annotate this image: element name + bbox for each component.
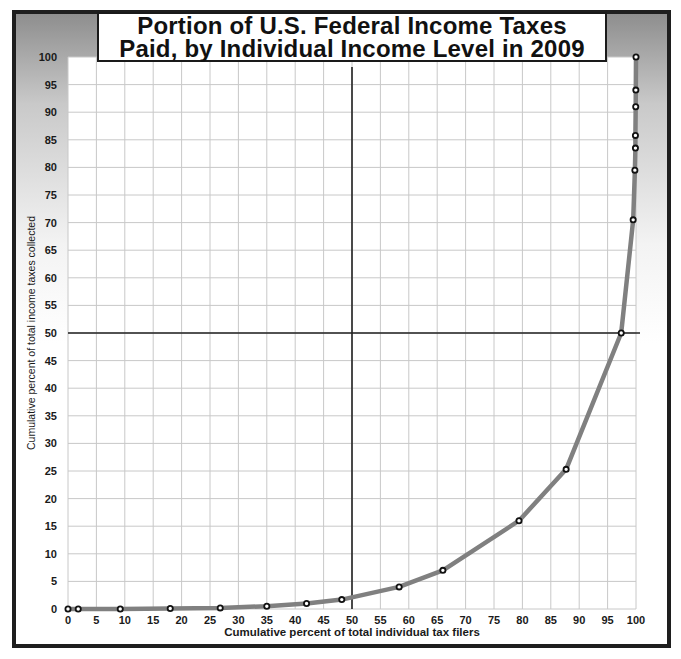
x-tick-label: 35 <box>261 614 273 626</box>
data-point <box>339 597 344 602</box>
data-point <box>264 604 269 609</box>
x-tick-label: 95 <box>601 614 613 626</box>
chart-title: Portion of U.S. Federal Income Taxes Pai… <box>97 12 607 62</box>
y-tick-label: 80 <box>45 161 57 173</box>
y-axis-label: Cumulative percent of total income taxes… <box>25 216 37 450</box>
y-axis-ticks: 0510152025303540455055606570758085909510… <box>39 51 57 615</box>
y-tick-label: 55 <box>45 299 57 311</box>
x-tick-label: 5 <box>93 614 99 626</box>
data-point <box>619 330 624 335</box>
x-tick-label: 25 <box>204 614 216 626</box>
y-tick-label: 20 <box>45 493 57 505</box>
x-tick-label: 50 <box>346 614 358 626</box>
data-point <box>76 606 81 611</box>
data-point <box>218 605 223 610</box>
y-tick-label: 100 <box>39 51 57 63</box>
data-point <box>304 601 309 606</box>
x-tick-label: 60 <box>403 614 415 626</box>
y-tick-label: 35 <box>45 410 57 422</box>
x-tick-label: 65 <box>431 614 443 626</box>
y-tick-label: 75 <box>45 189 57 201</box>
y-tick-label: 25 <box>45 465 57 477</box>
data-point <box>631 217 636 222</box>
chart-title-line-2: Paid, by Individual Income Level in 2009 <box>119 37 585 60</box>
data-point <box>633 145 638 150</box>
x-tick-label: 55 <box>374 614 386 626</box>
x-tick-label: 80 <box>516 614 528 626</box>
y-tick-label: 65 <box>45 244 57 256</box>
data-point <box>397 584 402 589</box>
y-tick-label: 30 <box>45 437 57 449</box>
chart-title-line-1: Portion of U.S. Federal Income Taxes <box>137 14 567 37</box>
x-axis-ticks: 0510152025303540455055606570758085909510… <box>65 614 645 626</box>
data-point <box>65 606 70 611</box>
y-tick-label: 50 <box>45 327 57 339</box>
y-tick-label: 0 <box>51 603 57 615</box>
line-chart: 0510152025303540455055606570758085909510… <box>0 0 681 659</box>
y-tick-label: 40 <box>45 382 57 394</box>
y-tick-label: 60 <box>45 272 57 284</box>
y-tick-label: 45 <box>45 355 57 367</box>
data-point <box>516 518 521 523</box>
x-tick-label: 0 <box>65 614 71 626</box>
data-point <box>168 606 173 611</box>
y-tick-label: 15 <box>45 520 57 532</box>
x-tick-label: 75 <box>488 614 500 626</box>
x-tick-label: 15 <box>147 614 159 626</box>
y-tick-label: 85 <box>45 134 57 146</box>
data-point <box>118 606 123 611</box>
data-point <box>633 88 638 93</box>
data-point <box>632 168 637 173</box>
x-tick-label: 10 <box>119 614 131 626</box>
y-tick-label: 10 <box>45 548 57 560</box>
x-tick-label: 70 <box>459 614 471 626</box>
x-tick-label: 40 <box>289 614 301 626</box>
y-tick-label: 70 <box>45 217 57 229</box>
data-point <box>564 467 569 472</box>
x-tick-label: 20 <box>175 614 187 626</box>
x-tick-label: 30 <box>232 614 244 626</box>
data-point <box>633 54 638 59</box>
data-point <box>633 104 638 109</box>
data-point <box>440 568 445 573</box>
y-tick-label: 5 <box>51 575 57 587</box>
x-tick-label: 90 <box>573 614 585 626</box>
y-tick-label: 90 <box>45 106 57 118</box>
y-tick-label: 95 <box>45 79 57 91</box>
data-point <box>633 133 638 138</box>
x-tick-label: 100 <box>627 614 645 626</box>
x-axis-label: Cumulative percent of total individual t… <box>224 626 480 638</box>
x-tick-label: 85 <box>545 614 557 626</box>
x-tick-label: 45 <box>317 614 329 626</box>
